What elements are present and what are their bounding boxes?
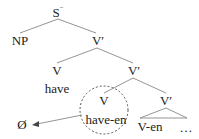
node-vbar-2: V′ [128,64,140,77]
edge-s-np [20,19,58,33]
edge-vbar2-v [104,78,133,93]
node-have: have [45,82,70,95]
edge-vbar-vbar [97,48,133,63]
node-vbar-3: V′ [160,94,172,107]
node-have-en: have-en [85,113,126,126]
node-v-en: V-en [138,120,163,133]
edge-vbar-v [57,48,97,63]
triangle [140,108,187,118]
edge-s-vbar [58,19,96,33]
node-np: NP [12,34,29,47]
node-null: Ø [17,118,26,131]
arrow-head-icon [32,121,39,127]
node-s-bar: S− [52,6,63,19]
node-v-2: V [99,94,108,107]
node-v-1: V [52,64,61,77]
node-ellipsis: … [180,121,193,134]
arrow-line [37,115,82,124]
node-vbar-1: V′ [92,34,104,47]
edge-vbar2-vbar [133,78,166,93]
